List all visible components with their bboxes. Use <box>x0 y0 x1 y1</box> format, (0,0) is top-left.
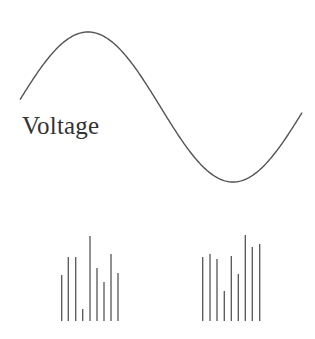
voltage-label: Voltage <box>22 112 99 140</box>
bar-groups <box>62 235 260 321</box>
voltage-diagram <box>0 0 315 339</box>
sine-wave <box>20 32 302 182</box>
left-group <box>62 236 118 321</box>
right-group <box>203 235 260 321</box>
